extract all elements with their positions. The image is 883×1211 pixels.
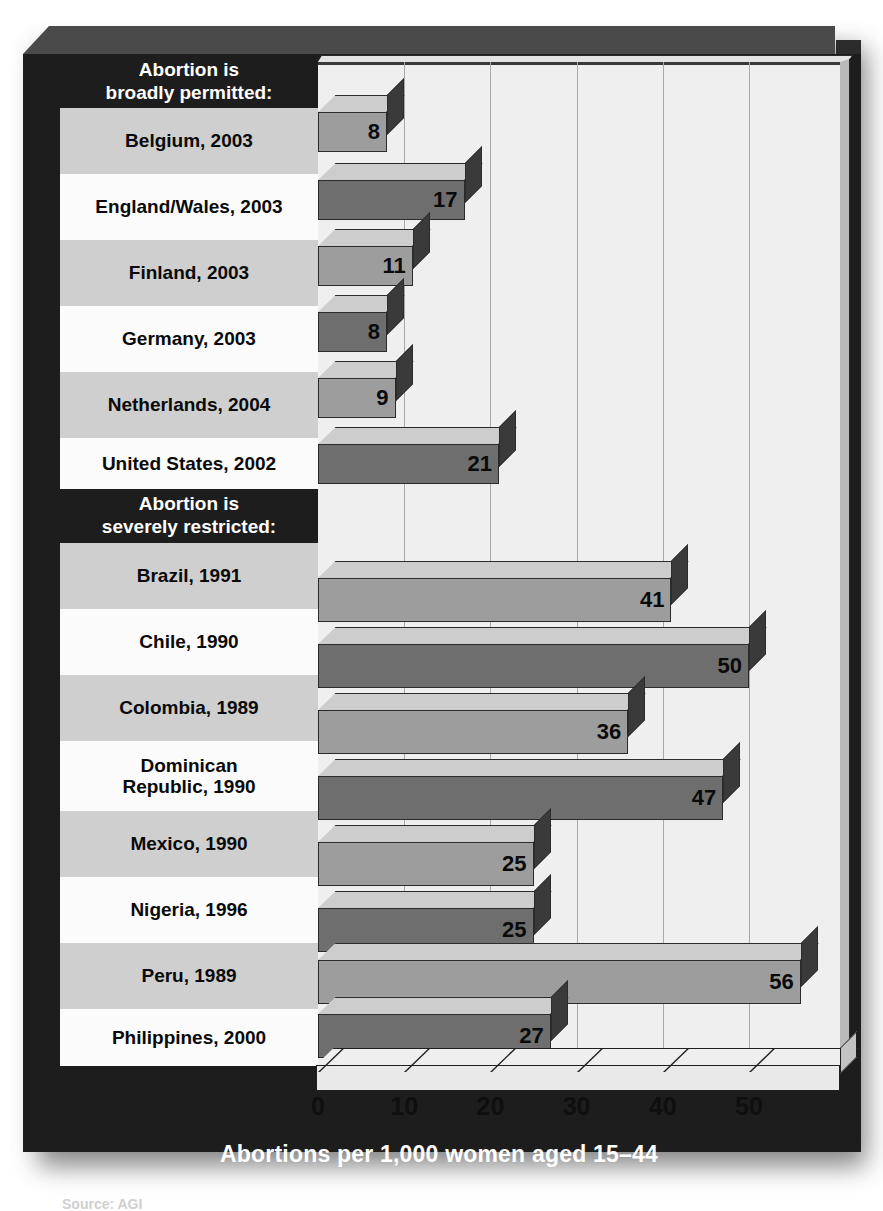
- group-header-restricted-line1: Abortion is: [139, 493, 239, 515]
- row-label-line2: Republic, 1990: [122, 776, 255, 797]
- bar-end-cap: [465, 146, 482, 203]
- bar-value-label: 21: [468, 451, 492, 477]
- bar-value-label: 36: [597, 719, 621, 745]
- bar-finland-2003: 11: [318, 246, 413, 286]
- bar-top-face: [318, 759, 741, 776]
- bar-england-wales-2003: 17: [318, 180, 465, 220]
- row-label-mexico-1990: Mexico, 1990: [60, 811, 318, 877]
- row-label-text: Brazil, 1991: [137, 565, 242, 586]
- bar-end-cap: [671, 544, 688, 605]
- row-label-text: Mexico, 1990: [130, 833, 247, 854]
- row-label-text: United States, 2002: [102, 453, 276, 474]
- row-label-line1: Dominican: [122, 755, 255, 776]
- bar-value-label: 11: [383, 253, 406, 279]
- group-header-restricted-line2: severely restricted:: [102, 516, 276, 538]
- x-tick-label-0: 0: [311, 1092, 325, 1121]
- row-label-netherlands-2004: Netherlands, 2004: [60, 372, 318, 438]
- bar-value-label: 47: [692, 785, 716, 811]
- row-label-text: Netherlands, 2004: [108, 394, 271, 415]
- row-label-united-states-2002: United States, 2002: [60, 438, 318, 489]
- bar-end-cap: [387, 278, 404, 335]
- row-label-text: Belgium, 2003: [125, 130, 253, 151]
- source-note: Source: AGI: [62, 1196, 142, 1210]
- bar-top-face: [318, 561, 689, 578]
- row-label-dominican-republic-1990: DominicanRepublic, 1990: [60, 741, 318, 811]
- bar-united-states-2002: 21: [318, 444, 499, 484]
- bar-mexico-1990: 25: [318, 842, 534, 886]
- bar-value-label: 8: [368, 319, 380, 345]
- bar-end-cap: [534, 874, 551, 935]
- bar-front-face: [318, 710, 628, 754]
- chart-figure: 8171189214150364725255627 Abortion isbro…: [0, 0, 883, 1211]
- row-label-finland-2003: Finland, 2003: [60, 240, 318, 306]
- bar-end-cap: [396, 344, 413, 401]
- row-label-text: Peru, 1989: [141, 965, 236, 986]
- bar-brazil-1991: 41: [318, 578, 671, 622]
- bar-end-cap: [387, 78, 404, 135]
- bar-germany-2003: 8: [318, 312, 387, 352]
- row-label-text: England/Wales, 2003: [95, 196, 282, 217]
- group-header-permitted-line2: broadly permitted:: [106, 82, 273, 104]
- x-tick-label-30: 30: [563, 1092, 591, 1121]
- bar-chile-1990: 50: [318, 644, 749, 688]
- bar-top-face: [318, 997, 568, 1014]
- axis-base-plate: [316, 1065, 840, 1091]
- bar-front-face: [318, 578, 671, 622]
- bar-end-cap: [801, 926, 818, 987]
- bar-value-label: 8: [368, 119, 380, 145]
- bar-value-label: 50: [718, 653, 742, 679]
- bar-colombia-1989: 36: [318, 710, 628, 754]
- bar-value-label: 56: [769, 969, 793, 995]
- bar-top-face: [318, 427, 517, 444]
- x-tick-label-20: 20: [476, 1092, 504, 1121]
- row-label-text: Nigeria, 1996: [130, 899, 247, 920]
- row-label-chile-1990: Chile, 1990: [60, 609, 318, 675]
- x-axis-caption: Abortions per 1,000 women aged 15–44: [44, 1128, 834, 1180]
- x-tick-label-40: 40: [649, 1092, 677, 1121]
- row-label-peru-1989: Peru, 1989: [60, 943, 318, 1009]
- row-label-philippines-2000: Philippines, 2000: [60, 1009, 318, 1066]
- bar-top-face: [318, 163, 482, 180]
- bar-end-cap: [749, 610, 766, 671]
- category-label-column: Abortion isbroadly permitted:Abortion is…: [60, 0, 318, 1211]
- row-label-text: Germany, 2003: [122, 328, 256, 349]
- bar-value-label: 25: [502, 917, 526, 943]
- bar-front-face: [318, 644, 749, 688]
- group-header-permitted-line1: Abortion is: [139, 59, 239, 81]
- x-tick-label-10: 10: [390, 1092, 418, 1121]
- bar-dominican-republic-1990: 47: [318, 776, 723, 820]
- bar-value-label: 25: [502, 851, 526, 877]
- row-label-text: Colombia, 1989: [119, 697, 258, 718]
- row-label-text: Finland, 2003: [129, 262, 249, 283]
- row-label-text: Chile, 1990: [139, 631, 238, 652]
- row-label-germany-2003: Germany, 2003: [60, 306, 318, 372]
- bar-value-label: 27: [519, 1023, 543, 1049]
- x-tick-label-50: 50: [735, 1092, 763, 1121]
- group-header-permitted: Abortion isbroadly permitted:: [60, 56, 318, 108]
- bar-end-cap: [499, 410, 516, 467]
- group-header-restricted: Abortion isseverely restricted:: [60, 489, 318, 543]
- bar-value-label: 41: [640, 587, 664, 613]
- row-label-england-wales-2003: England/Wales, 2003: [60, 174, 318, 240]
- row-label-colombia-1989: Colombia, 1989: [60, 675, 318, 741]
- row-label-nigeria-1996: Nigeria, 1996: [60, 877, 318, 943]
- bar-top-face: [318, 825, 551, 842]
- bar-top-face: [318, 943, 818, 960]
- bar-front-face: [318, 776, 723, 820]
- row-label-text: Philippines, 2000: [112, 1027, 266, 1048]
- bar-value-label: 9: [376, 385, 388, 411]
- bar-belgium-2003: 8: [318, 112, 387, 152]
- bar-top-face: [318, 627, 767, 644]
- bar-top-face: [318, 891, 551, 908]
- bar-value-label: 17: [433, 187, 457, 213]
- row-label-brazil-1991: Brazil, 1991: [60, 543, 318, 609]
- row-label-belgium-2003: Belgium, 2003: [60, 108, 318, 174]
- bar-top-face: [318, 693, 646, 710]
- bar-netherlands-2004: 9: [318, 378, 396, 418]
- bar-end-cap: [413, 212, 430, 269]
- bar-end-cap: [723, 742, 740, 803]
